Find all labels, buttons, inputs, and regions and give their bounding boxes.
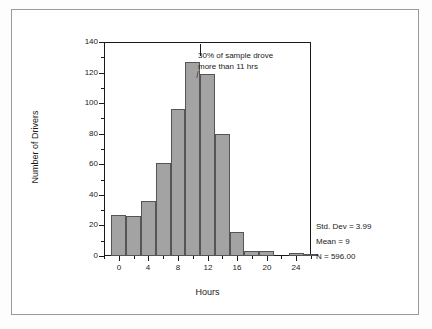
x-axis-minor-tick bbox=[281, 256, 282, 259]
y-axis-title: Number of Drivers bbox=[30, 77, 40, 217]
x-axis-tick-label: 16 bbox=[225, 263, 249, 272]
x-axis-minor-tick bbox=[163, 256, 164, 259]
histogram-bar bbox=[200, 74, 215, 256]
histogram-bar bbox=[141, 201, 156, 256]
y-axis-tick-label: 60 bbox=[64, 160, 98, 168]
x-axis-tick bbox=[148, 256, 149, 261]
histogram-chart: 020406080100120140 04812162024 Hours Num… bbox=[0, 0, 432, 329]
y-axis-tick-label: 0 bbox=[64, 252, 98, 260]
stat-mean: Mean = 9 bbox=[316, 234, 371, 249]
x-axis-tick bbox=[296, 256, 297, 261]
annotation-line-1: 30% of sample drove bbox=[198, 50, 313, 61]
histogram-bar bbox=[156, 163, 171, 256]
histogram-bar bbox=[215, 134, 230, 256]
x-axis-tick-label: 8 bbox=[166, 263, 190, 272]
x-axis-tick-label: 20 bbox=[255, 263, 279, 272]
x-axis-title: Hours bbox=[104, 287, 311, 297]
y-axis-tick-label: 20 bbox=[64, 221, 98, 229]
histogram-bar bbox=[185, 62, 200, 256]
histogram-bar bbox=[230, 232, 245, 256]
x-axis-minor-tick bbox=[134, 256, 135, 259]
x-axis-minor-tick bbox=[104, 256, 105, 259]
x-axis-tick bbox=[267, 256, 268, 261]
y-axis-labels: 020406080100120140 bbox=[58, 0, 98, 329]
x-axis-minor-tick bbox=[252, 256, 253, 259]
x-axis-tick bbox=[178, 256, 179, 261]
statistics-block: Std. Dev = 3.99 Mean = 9 N = 596.00 bbox=[316, 219, 371, 264]
histogram-bar bbox=[171, 109, 186, 256]
histogram-bar bbox=[126, 216, 141, 256]
bar-series bbox=[104, 42, 311, 256]
x-axis-tick-label: 24 bbox=[284, 263, 308, 272]
x-axis-tick-label: 4 bbox=[136, 263, 160, 272]
chart-page: 020406080100120140 04812162024 Hours Num… bbox=[0, 0, 432, 329]
x-axis-tick bbox=[237, 256, 238, 261]
y-axis-tick-label: 40 bbox=[64, 191, 98, 199]
x-axis-minor-tick bbox=[222, 256, 223, 259]
x-axis-tick-label: 12 bbox=[196, 263, 220, 272]
stat-std-dev: Std. Dev = 3.99 bbox=[316, 219, 371, 234]
x-axis-tick-label: 0 bbox=[107, 263, 131, 272]
y-axis-tick-label: 80 bbox=[64, 130, 98, 138]
histogram-bar bbox=[111, 215, 126, 256]
x-axis-tick bbox=[119, 256, 120, 261]
x-axis-minor-tick bbox=[311, 256, 312, 259]
y-axis-tick-label: 100 bbox=[64, 99, 98, 107]
annotation-line-2: more than 11 hrs bbox=[198, 61, 313, 72]
annotation-text: 30% of sample drove more than 11 hrs bbox=[198, 50, 313, 72]
stat-n: N = 596.00 bbox=[316, 249, 371, 264]
x-axis-minor-tick bbox=[193, 256, 194, 259]
y-axis-tick-label: 140 bbox=[64, 38, 98, 46]
y-axis-tick-label: 120 bbox=[64, 69, 98, 77]
x-axis-tick bbox=[208, 256, 209, 261]
